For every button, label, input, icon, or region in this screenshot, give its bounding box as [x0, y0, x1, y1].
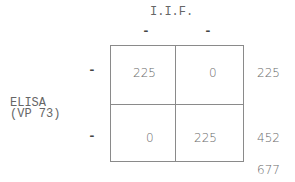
- row-variable-label: ELISA (VP 73): [10, 98, 60, 120]
- column-level-1: -: [142, 24, 150, 39]
- cell-r2-c1: 0: [146, 131, 154, 145]
- row-total-1: 225: [257, 66, 280, 80]
- cell-r2-c2: 225: [194, 131, 217, 145]
- grid-left-line: [110, 45, 111, 162]
- row-level-1: -: [88, 63, 96, 78]
- grid-right-line: [243, 45, 244, 162]
- grid-middle-line: [110, 104, 244, 105]
- cell-r1-c2: 0: [209, 66, 217, 80]
- grid-top-line: [110, 45, 244, 46]
- grid-center-line: [175, 45, 176, 162]
- row-total-2: 452: [257, 131, 280, 145]
- row-level-2: -: [88, 129, 96, 144]
- grid-bottom-line: [110, 161, 244, 162]
- cell-r1-c1: 225: [133, 66, 156, 80]
- row-variable-subname: (VP 73): [10, 109, 60, 120]
- grand-total: 677: [257, 163, 280, 177]
- column-level-2: -: [204, 24, 212, 39]
- column-variable-label: I.I.F.: [150, 5, 193, 19]
